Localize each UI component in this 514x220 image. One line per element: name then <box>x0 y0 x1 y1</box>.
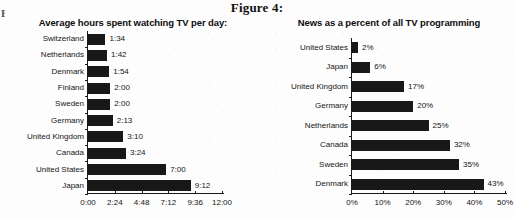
category-label: United States <box>36 165 84 175</box>
x-axis-tick <box>195 191 196 194</box>
figure-page: E Figure 4: Average hours spent watching… <box>0 0 514 220</box>
category-label: Sweden <box>55 99 84 109</box>
x-axis-tick-label: 20% <box>405 198 421 208</box>
category-label: Netherlands <box>305 121 348 131</box>
x-axis-tick-label: 10% <box>375 198 391 208</box>
category-label: Canada <box>320 140 348 150</box>
x-axis-tick <box>222 191 223 194</box>
x-axis-tick-label: 7:12 <box>161 198 177 208</box>
x-axis-tick-label: 9:36 <box>187 198 203 208</box>
category-label: United Kingdom <box>27 132 84 142</box>
chart-title-news-percent: News as a percent of all TV programming <box>258 17 514 28</box>
x-axis-tick-label: 50% <box>497 198 513 208</box>
category-label: Netherlands <box>41 50 84 60</box>
x-axis-tick <box>383 191 384 194</box>
bar-row: Denmark43% <box>352 38 505 194</box>
chart-tv-hours: Average hours spent watching TV per day:… <box>0 0 258 220</box>
x-axis-tick <box>168 191 169 194</box>
category-label: Finland <box>58 83 84 93</box>
x-axis-tick <box>115 191 116 194</box>
x-axis-tick <box>413 191 414 194</box>
category-label: Canada <box>56 148 84 158</box>
category-label: Japan <box>326 62 348 72</box>
category-label: Japan <box>62 181 84 191</box>
x-axis-tick-label: 40% <box>466 198 482 208</box>
category-label: United States <box>300 43 348 53</box>
category-tick <box>85 194 88 195</box>
x-axis-tick-label: 12:00 <box>212 198 232 208</box>
category-label: Germany <box>315 101 348 111</box>
x-axis-tick-label: 4:48 <box>134 198 150 208</box>
category-label: Denmark <box>316 179 348 189</box>
plot-area-tv-hours: Switzerland1:34Netherlands1:42Denmark1:5… <box>88 31 222 194</box>
chart-title-tv-hours: Average hours spent watching TV per day: <box>0 17 258 28</box>
bar <box>352 179 484 190</box>
category-tick <box>349 194 352 195</box>
category-label: Germany <box>51 116 84 126</box>
x-axis-tick-label: 30% <box>436 198 452 208</box>
category-label: Denmark <box>52 67 84 77</box>
x-axis-tick-label: 2:24 <box>107 198 123 208</box>
bar <box>88 180 191 191</box>
x-axis-tick-label: 0:00 <box>80 198 96 208</box>
x-axis-tick <box>474 191 475 194</box>
x-axis-tick <box>505 191 506 194</box>
plot-area-news-percent: United States2%Japan6%United Kingdom17%G… <box>352 38 505 194</box>
x-axis-tick <box>444 191 445 194</box>
bar-row: Japan9:12 <box>88 31 222 194</box>
category-label: Switzerland <box>43 34 84 44</box>
value-label: 9:12 <box>195 181 211 191</box>
category-label: Sweden <box>319 160 348 170</box>
x-axis-tick <box>142 191 143 194</box>
value-label: 43% <box>488 179 504 189</box>
category-label: United Kingdom <box>291 82 348 92</box>
chart-news-percent: News as a percent of all TV programming … <box>258 0 514 220</box>
x-axis-tick-label: 0% <box>346 198 358 208</box>
